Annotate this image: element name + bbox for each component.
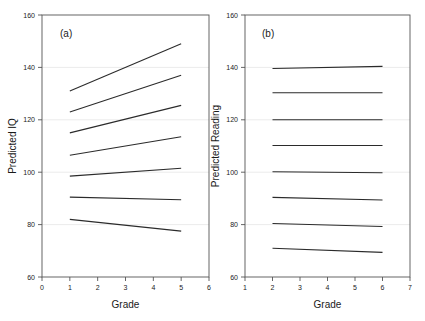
x-tick-label-1: 1 <box>243 284 247 291</box>
data-line-line-7 <box>273 224 383 227</box>
y-tick-label-100: 100 <box>226 169 238 176</box>
data-line-line-5 <box>273 172 383 173</box>
data-line-line-7 <box>70 219 181 231</box>
y-axis-title: Predicted IQ <box>7 118 18 174</box>
panel-a: 01234566080100120140160GradePredicted IQ… <box>7 12 211 311</box>
chart-svg: 01234566080100120140160GradePredicted IQ… <box>0 0 425 321</box>
data-lines <box>70 44 181 231</box>
x-tick-label-2: 2 <box>271 284 275 291</box>
y-tick-label-140: 140 <box>226 64 238 71</box>
y-tick-label-140: 140 <box>23 64 35 71</box>
y-tick-label-160: 160 <box>226 12 238 19</box>
x-tick-label-4: 4 <box>151 284 155 291</box>
data-line-line-8 <box>273 248 383 252</box>
y-tick-label-120: 120 <box>23 116 35 123</box>
x-tick-label-6: 6 <box>207 284 211 291</box>
y-tick-label-80: 80 <box>27 221 35 228</box>
y-tick-label-60: 60 <box>230 274 238 281</box>
data-line-line-6 <box>273 197 383 200</box>
x-tick-label-2: 2 <box>96 284 100 291</box>
y-tick-label-100: 100 <box>23 169 35 176</box>
x-tick-label-6: 6 <box>381 284 385 291</box>
y-tick-label-120: 120 <box>226 116 238 123</box>
x-tick-label-3: 3 <box>298 284 302 291</box>
panel-label: (a) <box>60 28 72 39</box>
data-line-line-4 <box>70 137 181 155</box>
y-axis-title: Predicted Reading <box>210 105 221 187</box>
x-tick-label-1: 1 <box>68 284 72 291</box>
x-tick-label-3: 3 <box>124 284 128 291</box>
y-tick-label-60: 60 <box>27 274 35 281</box>
data-line-line-2 <box>70 75 181 112</box>
data-line-line-6 <box>70 197 181 200</box>
data-line-line-3 <box>70 105 181 133</box>
y-tick-label-80: 80 <box>230 221 238 228</box>
panel-label: (b) <box>262 28 274 39</box>
x-tick-label-5: 5 <box>179 284 183 291</box>
x-axis-title: Grade <box>112 299 140 310</box>
x-tick-label-0: 0 <box>40 284 44 291</box>
x-tick-label-7: 7 <box>408 284 412 291</box>
panel-b: 12345676080100120140160GradePredicted Re… <box>210 12 412 311</box>
x-axis-title: Grade <box>314 299 342 310</box>
x-tick-label-5: 5 <box>353 284 357 291</box>
figure-container: 01234566080100120140160GradePredicted IQ… <box>0 0 425 321</box>
y-tick-label-160: 160 <box>23 12 35 19</box>
x-tick-label-4: 4 <box>326 284 330 291</box>
